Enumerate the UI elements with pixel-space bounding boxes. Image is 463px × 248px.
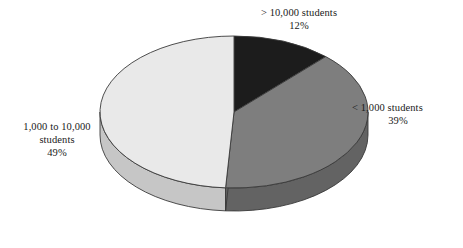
slice-label-1000-to-10000-value: 49% [2,146,112,159]
pie-slices-group [100,36,368,211]
slice-label-under-1000: < 1,000 students 39% [352,101,463,127]
slice-label-under-1000-value: 39% [352,114,444,127]
pie-chart: > 10,000 students 12% < 1,000 students 3… [0,0,463,248]
slice-label-under-1000-name: < 1,000 students [352,101,463,114]
slice-label-over-10000: > 10,000 students 12% [219,6,379,32]
slice-label-1000-to-10000-name-line2: students [2,133,112,146]
slice-label-over-10000-value: 12% [219,19,379,32]
slice-label-1000-to-10000: 1,000 to 10,000 students 49% [2,120,112,159]
slice-label-1000-to-10000-name-line1: 1,000 to 10,000 [2,120,112,133]
slice-label-over-10000-name: > 10,000 students [219,6,379,19]
